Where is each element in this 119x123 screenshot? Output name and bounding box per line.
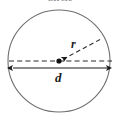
center-point-dot (56, 58, 61, 63)
radius-label: r (71, 38, 76, 50)
circle-figure: Circle r d (0, 0, 119, 123)
radius-arrow (63, 40, 101, 60)
circle-diagram-svg (0, 0, 119, 123)
diameter-label: d (55, 71, 62, 84)
